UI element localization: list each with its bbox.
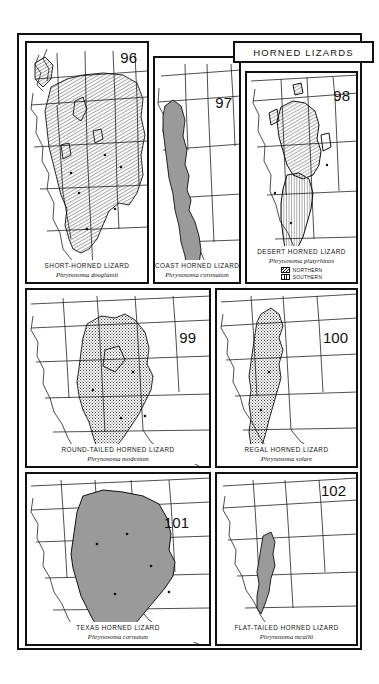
map-round-tailed-horned-lizard bbox=[27, 290, 209, 466]
map-regal-horned-lizard bbox=[217, 290, 356, 466]
scientific-name-99: Phrynosoma modestum bbox=[27, 454, 209, 464]
common-name-102: FLAT-TAILED HORNED LIZARD bbox=[217, 623, 356, 632]
panel-number-98: 98 bbox=[333, 87, 350, 104]
scientific-name-100: Phrynosoma solare bbox=[217, 454, 356, 464]
panel-number-97: 97 bbox=[215, 94, 232, 111]
legend-label-southern: SOUTHERN bbox=[293, 275, 322, 280]
legend-label-northern: NORTHERN bbox=[293, 268, 323, 273]
panel-number-102: 102 bbox=[321, 482, 346, 499]
panel-texas-horned-lizard[interactable]: 101 TEXAS HORNED LIZARD Phrynosoma cornu… bbox=[25, 472, 211, 646]
panel-short-horned-lizard[interactable]: 96 SHORT-HORNED LIZARD Phrynosoma dougla… bbox=[25, 41, 149, 284]
legend-swatch-southern bbox=[281, 274, 290, 280]
map-coast-horned-lizard bbox=[155, 58, 239, 282]
scientific-name-97: Phrynosoma coronatum bbox=[155, 270, 239, 280]
map-svg-99 bbox=[27, 290, 209, 466]
panel-flat-tailed-horned-lizard[interactable]: 102 FLAT-TAILED HORNED LIZARD Phrynosoma… bbox=[215, 472, 358, 646]
caption-98: DESERT HORNED LIZARD Phrynosoma platyrhi… bbox=[247, 246, 356, 280]
caption-102: FLAT-TAILED HORNED LIZARD Phrynosoma mca… bbox=[217, 622, 356, 642]
caption-101: TEXAS HORNED LIZARD Phrynosoma cornutum bbox=[27, 622, 209, 642]
scientific-name-96: Phrynosoma douglassii bbox=[27, 270, 147, 280]
common-name-97: COAST HORNED LIZARD bbox=[155, 261, 239, 270]
legend-row-northern: NORTHERN bbox=[281, 267, 323, 273]
map-flat-tailed-horned-lizard bbox=[217, 474, 356, 644]
plate-title-box: HORNED LIZARDS bbox=[233, 41, 374, 63]
common-name-98: DESERT HORNED LIZARD bbox=[247, 247, 356, 256]
scientific-name-102: Phrynosoma mcallii bbox=[217, 632, 356, 642]
common-name-101: TEXAS HORNED LIZARD bbox=[27, 623, 209, 632]
panel-number-99: 99 bbox=[179, 329, 196, 346]
common-name-99: ROUND-TAILED HORNED LIZARD bbox=[27, 445, 209, 454]
page-title: HORNED LIZARDS bbox=[253, 47, 354, 58]
map-svg-101 bbox=[27, 474, 209, 644]
panel-desert-horned-lizard[interactable]: 98 DESERT HORNED LIZARD Phrynosoma platy… bbox=[245, 71, 358, 284]
scientific-name-98: Phrynosoma platyrhinos bbox=[247, 256, 356, 266]
map-svg-96 bbox=[27, 43, 147, 282]
legend-row-southern: SOUTHERN bbox=[281, 274, 322, 280]
panel-number-101: 101 bbox=[164, 514, 189, 531]
panel-regal-horned-lizard[interactable]: 100 REGAL HORNED LIZARD Phrynosoma solar… bbox=[215, 288, 358, 468]
caption-97: COAST HORNED LIZARD Phrynosoma coronatum bbox=[155, 260, 239, 280]
map-svg-102 bbox=[217, 474, 356, 644]
panel-number-100: 100 bbox=[323, 329, 348, 346]
common-name-100: REGAL HORNED LIZARD bbox=[217, 445, 356, 454]
common-name-96: SHORT-HORNED LIZARD bbox=[27, 261, 147, 270]
panel-number-96: 96 bbox=[120, 49, 137, 66]
legend-swatch-northern bbox=[281, 267, 290, 273]
map-svg-97 bbox=[155, 58, 239, 282]
caption-99: ROUND-TAILED HORNED LIZARD Phrynosoma mo… bbox=[27, 444, 209, 464]
map-svg-100 bbox=[217, 290, 356, 466]
caption-100: REGAL HORNED LIZARD Phrynosoma solare bbox=[217, 444, 356, 464]
scientific-name-101: Phrynosoma cornutum bbox=[27, 632, 209, 642]
panel-coast-horned-lizard[interactable]: 97 COAST HORNED LIZARD Phrynosoma corona… bbox=[153, 56, 241, 284]
range-legend: NORTHERN SOUTHERN bbox=[247, 267, 356, 280]
plate-frame: HORNED LIZARDS bbox=[17, 33, 362, 650]
panel-round-tailed-horned-lizard[interactable]: 99 ROUND-TAILED HORNED LIZARD Phrynosoma… bbox=[25, 288, 211, 468]
caption-96: SHORT-HORNED LIZARD Phrynosoma douglassi… bbox=[27, 260, 147, 280]
map-texas-horned-lizard bbox=[27, 474, 209, 644]
map-short-horned-lizard bbox=[27, 43, 147, 282]
